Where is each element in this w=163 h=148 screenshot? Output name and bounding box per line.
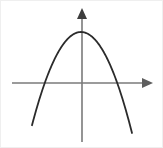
y-axis-arrowhead-icon: [77, 8, 87, 19]
x-axis-arrowhead-icon: [142, 78, 153, 88]
figure-canvas: [0, 0, 163, 148]
parabola-figure: downward-opening parabola on coordinate …: [0, 0, 163, 148]
